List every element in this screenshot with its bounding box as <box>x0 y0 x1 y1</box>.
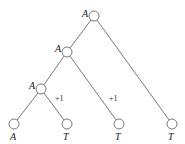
node-leaf3 <box>114 119 124 129</box>
label-n3: A <box>28 80 36 91</box>
node-n3 <box>36 84 46 94</box>
edge-root-leaf4 <box>94 16 172 124</box>
edge-n2-leaf3 <box>67 52 119 124</box>
label-n2: A <box>54 43 62 54</box>
node-root <box>89 11 99 21</box>
weight-n2-leaf3: +1 <box>109 94 118 103</box>
label-leaf1: A <box>9 131 17 142</box>
node-leaf2 <box>62 119 72 129</box>
label-leaf2: T <box>63 131 70 142</box>
node-n2 <box>62 47 72 57</box>
phylogeny-tree: A A A A T T T +1 +1 <box>0 0 185 144</box>
edge-n2-n3 <box>41 52 67 89</box>
label-leaf3: T <box>115 131 122 142</box>
edge-n3-leaf1 <box>14 89 41 124</box>
edge-root-n2 <box>67 16 94 52</box>
node-leaf1 <box>9 119 19 129</box>
node-leaf4 <box>167 119 177 129</box>
label-leaf4: T <box>168 131 175 142</box>
weight-n3-leaf2: +1 <box>55 94 64 103</box>
label-root: A <box>81 8 89 19</box>
